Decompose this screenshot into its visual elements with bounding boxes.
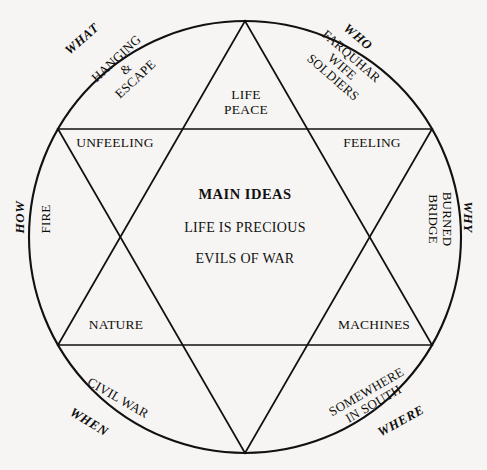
star-point-label-top: LIFE PEACE [196,88,296,117]
segment-answer-why: BURNED BRIDGE [426,188,454,250]
segment-question-how: HOW [13,187,27,247]
main-idea-line-2: EVILS OF WAR [120,251,370,267]
main-idea-line-1: LIFE IS PRECIOUS [120,220,370,236]
star-point-label-upper-right: FEELING [324,136,420,151]
main-ideas-block: MAIN IDEAS LIFE IS PRECIOUS EVILS OF WAR [120,186,370,267]
main-ideas-title: MAIN IDEAS [120,186,370,203]
segment-answer-how: FIRE [39,191,53,247]
star-point-label-lower-left: NATURE [68,318,164,333]
star-point-label-upper-left: UNFEELING [63,136,167,151]
diagram-canvas: WHAT WHO HOW WHY WHEN WHERE HANGING & ES… [0,0,487,470]
star-point-label-lower-right: MACHINES [321,318,427,333]
segment-question-why: WHY [461,189,475,245]
